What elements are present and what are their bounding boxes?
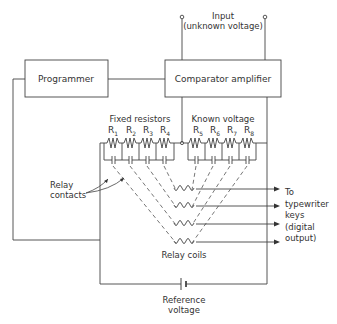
comparator-label: Comparator amplifier	[175, 74, 272, 84]
relay-contacts-label: Relay contacts	[50, 180, 86, 200]
resistor-label-r6: R6	[210, 125, 220, 139]
output-line4: (digital	[285, 222, 329, 234]
resistor-label-r7: R7	[227, 125, 237, 139]
relay-contacts	[104, 143, 256, 164]
resistor-label-r4: R4	[160, 125, 170, 139]
relay-contacts-line1: Relay	[50, 180, 86, 190]
programmer-label: Programmer	[38, 74, 94, 84]
relay-coils	[174, 186, 194, 244]
output-line3: keys	[285, 210, 329, 222]
reference-line2: voltage	[163, 305, 206, 315]
input-label-line2: (unknown voltage)	[183, 21, 263, 31]
output-arrows	[196, 189, 274, 242]
battery-icon	[181, 278, 186, 290]
relay-contacts-line2: contacts	[50, 190, 86, 200]
input-label: Input (unknown voltage)	[183, 11, 263, 31]
resistor-label-r5: R5	[193, 125, 203, 139]
reference-voltage-label: Reference voltage	[163, 295, 206, 315]
output-line2: typewriter	[285, 199, 329, 211]
arrowheads	[274, 187, 280, 245]
output-label: To typewriter keys (digital output)	[285, 187, 329, 245]
input-label-line1: Input	[183, 11, 263, 21]
schematic-lines	[0, 0, 337, 324]
resistor-label-r2: R2	[126, 125, 136, 139]
input-terminal-right	[263, 15, 267, 19]
circuit-diagram: Input (unknown voltage) Programmer Compa…	[0, 0, 337, 324]
output-line5: output)	[285, 233, 329, 245]
relay-linkages	[113, 166, 247, 243]
resistor-label-r1: R1	[108, 125, 118, 139]
relay-coils-label: Relay coils	[161, 250, 206, 260]
output-line1: To	[285, 187, 329, 199]
resistor-label-r8: R8	[244, 125, 254, 139]
known-voltage-label: Known voltage	[192, 114, 255, 124]
fixed-resistors-label: Fixed resistors	[110, 114, 171, 124]
resistor-label-r3: R3	[143, 125, 153, 139]
reference-line1: Reference	[163, 295, 206, 305]
